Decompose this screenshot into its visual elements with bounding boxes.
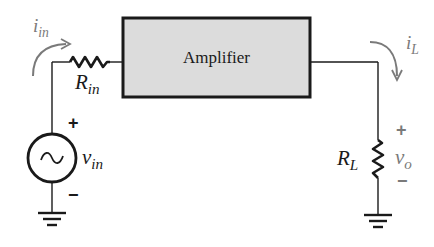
load-resistor-subscript: L bbox=[350, 157, 358, 173]
ac-source-icon bbox=[28, 134, 76, 182]
output-voltage-symbol: v bbox=[395, 145, 404, 169]
input-resistor bbox=[70, 57, 110, 67]
amplifier-label: Amplifier bbox=[123, 18, 310, 97]
output-wires bbox=[310, 62, 378, 214]
source-minus-sign: − bbox=[68, 186, 79, 204]
load-resistor-label: RL bbox=[337, 148, 358, 173]
source-voltage-symbol: v bbox=[82, 145, 91, 169]
load-current-arrow-icon bbox=[370, 42, 402, 80]
source-voltage-label: vin bbox=[82, 147, 103, 172]
output-voltage-label: vo bbox=[395, 147, 412, 172]
input-current-label: iin bbox=[33, 16, 49, 39]
load-resistor bbox=[373, 140, 383, 178]
input-current-subscript: in bbox=[38, 25, 49, 40]
output-minus-sign: − bbox=[397, 172, 408, 190]
ground-icon-left bbox=[38, 213, 66, 225]
load-current-label: iL bbox=[406, 33, 419, 56]
input-resistor-label: Rin bbox=[75, 72, 100, 97]
output-plus-sign: + bbox=[396, 121, 407, 139]
load-resistor-symbol: R bbox=[337, 146, 350, 170]
ground-icon-right bbox=[364, 215, 392, 227]
source-voltage-subscript: in bbox=[91, 156, 103, 172]
output-voltage-subscript: o bbox=[404, 156, 412, 172]
input-resistor-subscript: in bbox=[88, 81, 100, 97]
load-current-subscript: L bbox=[411, 42, 419, 57]
input-resistor-symbol: R bbox=[75, 70, 88, 94]
source-plus-sign: + bbox=[68, 114, 79, 132]
